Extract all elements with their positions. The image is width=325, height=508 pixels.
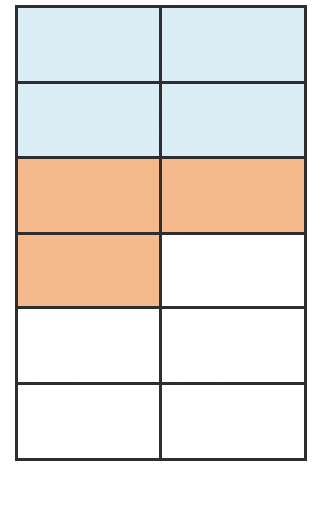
area-model-grid: [15, 5, 307, 461]
figure-canvas: [0, 0, 325, 508]
grid-cell-r6c1: [18, 385, 162, 458]
grid-cell-r5c2: [162, 309, 304, 385]
grid-cell-r4c1: [18, 235, 162, 309]
grid-cell-r1c1: [18, 8, 162, 84]
grid-cell-r1c2: [162, 8, 304, 84]
grid-cell-r3c1: [18, 159, 162, 235]
grid-cell-r5c1: [18, 309, 162, 385]
grid-cell-r2c1: [18, 84, 162, 159]
grid-cell-r2c2: [162, 84, 304, 159]
grid-cell-r3c2: [162, 159, 304, 235]
grid-cell-r4c2: [162, 235, 304, 309]
grid-cell-r6c2: [162, 385, 304, 458]
